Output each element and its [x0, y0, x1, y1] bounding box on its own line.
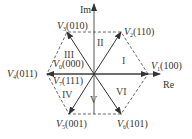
- vector-label-v2: V2(110): [124, 26, 154, 38]
- sector-label-3: III: [64, 49, 74, 60]
- imag-axis-label: Im: [80, 4, 91, 15]
- sector-label-4: IV: [62, 89, 73, 100]
- sector-label-2: II: [97, 37, 104, 48]
- vector-label-v6: V6(101): [117, 118, 148, 130]
- sector-label-1: I: [122, 55, 125, 66]
- space-vector-diagram: Im Re V3(010) V2(110) V1(100) V4(011) V0…: [0, 0, 192, 139]
- svg-text:V4(011): V4(011): [7, 68, 37, 80]
- real-axis-label: Re: [163, 79, 175, 90]
- svg-text:V2(110): V2(110): [124, 26, 154, 38]
- svg-text:V6(101): V6(101): [117, 118, 148, 130]
- svg-text:V3(010): V3(010): [57, 20, 88, 32]
- vector-label-v3: V3(010): [57, 20, 88, 32]
- svg-text:V5(001): V5(001): [56, 118, 87, 130]
- svg-text:V1(100): V1(100): [151, 60, 182, 72]
- sector-label-5: V: [90, 94, 98, 105]
- vector-label-v1: V1(100): [151, 60, 182, 72]
- svg-text:V7(111): V7(111): [53, 75, 83, 87]
- sector-label-6: VI: [116, 86, 127, 97]
- vector-label-v7: V7(111): [53, 75, 83, 87]
- vector-label-v5: V5(001): [56, 118, 87, 130]
- vector-label-v4: V4(011): [7, 68, 37, 80]
